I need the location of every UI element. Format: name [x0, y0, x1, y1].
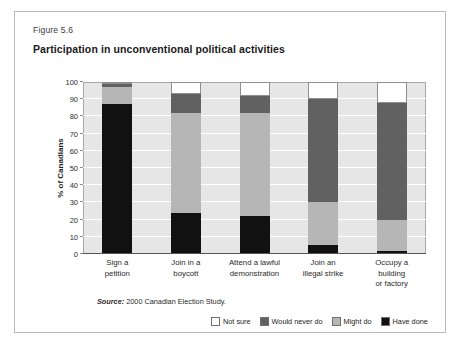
y-tick-mark	[80, 98, 83, 99]
y-tick-mark	[80, 115, 83, 116]
y-axis-title: % of Canadians	[56, 138, 65, 198]
y-tick-mark	[80, 184, 83, 185]
source-note: Source: 2000 Canadian Election Study.	[97, 297, 226, 306]
y-tick-label: 60	[70, 146, 78, 155]
y-tick-label: 90	[70, 95, 78, 104]
y-tick-mark	[80, 133, 83, 134]
legend-label: Would never do	[272, 317, 323, 326]
y-tick-mark	[80, 150, 83, 151]
legend-label: Have done	[393, 317, 428, 326]
y-tick-label: 30	[70, 198, 78, 207]
y-tick-label: 80	[70, 112, 78, 121]
legend-swatch-might-do	[332, 317, 341, 326]
y-tick-mark	[80, 81, 83, 82]
legend-swatch-not-sure	[211, 317, 220, 326]
legend-item-not-sure: Not sure	[211, 317, 251, 326]
legend-item-would-never-do: Would never do	[260, 317, 323, 326]
y-tick-mark	[80, 219, 83, 220]
x-label-line: or factory	[350, 279, 434, 290]
legend-label: Might do	[344, 317, 372, 326]
figure-frame: Figure 5.6 Participation in unconvention…	[14, 11, 446, 333]
legend-swatch-have-done	[381, 317, 390, 326]
legend-item-have-done: Have done	[381, 317, 428, 326]
y-axis-ticks: 0102030405060708090100	[83, 82, 426, 254]
legend-label: Not sure	[223, 317, 251, 326]
figure-number: Figure 5.6	[33, 25, 73, 35]
chart-area: 0102030405060708090100 % of Canadians Si…	[83, 82, 426, 254]
source-text: 2000 Canadian Election Study.	[126, 297, 226, 306]
x-label-line: Occupy a	[350, 258, 434, 269]
y-tick-mark	[80, 201, 83, 202]
figure-title: Participation in unconventional politica…	[33, 43, 285, 55]
chart-legend: Not sureWould never doMight doHave done	[211, 317, 428, 326]
y-tick-mark	[80, 167, 83, 168]
legend-swatch-would-never-do	[260, 317, 269, 326]
y-tick-label: 70	[70, 129, 78, 138]
x-label-line: building	[350, 269, 434, 280]
y-tick-label: 100	[65, 78, 78, 87]
y-tick-label: 20	[70, 215, 78, 224]
y-tick-label: 50	[70, 164, 78, 173]
y-tick-mark	[80, 236, 83, 237]
y-tick-label: 40	[70, 181, 78, 190]
y-tick-label: 10	[70, 232, 78, 241]
legend-item-might-do: Might do	[332, 317, 372, 326]
source-label: Source:	[97, 297, 124, 306]
x-axis-label-5: Occupy abuildingor factory	[350, 258, 434, 290]
x-axis-line	[83, 253, 426, 254]
